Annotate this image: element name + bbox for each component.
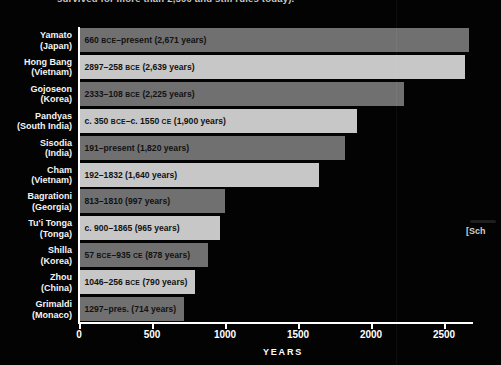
era-abbrev: CE [133,252,143,259]
bar-period-label: 1046–256 BCE (790 years) [80,270,195,295]
bar-period-label: 192–1832 (1,640 years) [80,163,319,187]
bar: 2897–258 BCE (2,639 years) [80,55,465,79]
bar-period-label: 2897–258 BCE (2,639 years) [80,55,465,80]
bar-period-label: c. 900–1865 (965 years) [80,216,221,240]
dynasty-name: Tu'i Tonga [0,218,72,229]
x-axis-line [78,322,473,324]
x-tick-label: 2000 [351,329,391,340]
x-tick [79,322,81,329]
clipped-side-smudge [470,220,496,223]
y-axis-category-label: Shilla(Korea) [0,245,72,266]
dynasty-country: (Vietnam) [0,175,72,186]
dynasty-name: Gojoseon [0,83,72,94]
era-abbrev: BCE [125,279,140,286]
dynasty-country: (Monaco) [0,309,72,320]
dynasty-country: (Tonga) [0,228,72,239]
x-tick [225,322,227,329]
bar: 191–present (1,820 years) [80,136,346,160]
y-axis-category-label: Pandyas(South India) [0,110,72,131]
y-axis-category-label: Zhou(China) [0,272,72,293]
bar-period-label: 660 BCE–present (2,671 years) [80,28,470,53]
x-tick-label: 0 [59,329,99,340]
dynasty-name: Grimaldi [0,299,72,310]
era-abbrev: CE [162,118,172,125]
bar-period-label: 2333–108 BCE (2,225 years) [80,82,405,107]
bar: 660 BCE–present (2,671 years) [80,28,470,52]
era-abbrev: BCE [125,64,140,71]
dynasty-name: Shilla [0,245,72,256]
bar: 192–1832 (1,640 years) [80,163,319,187]
bar-period-label: 57 BCE–935 CE (878 years) [80,243,208,268]
x-tick [152,322,154,329]
y-axis-category-label: Yamato(Japan) [0,30,72,51]
y-axis-category-label: Sisodia(India) [0,137,72,158]
x-tick [298,322,300,329]
bar: 57 BCE–935 CE (878 years) [80,243,208,267]
bar: 813–1810 (997 years) [80,189,226,213]
x-tick-label: 1500 [278,329,318,340]
era-abbrev: BCE [111,118,126,125]
x-tick-label: 1000 [205,329,245,340]
bar-period-label: c. 350 BCE–c. 1550 CE (1,900 years) [80,109,357,134]
dynasty-country: (Korea) [0,255,72,266]
bar-period-label: 813–1810 (997 years) [80,189,226,213]
era-abbrev: BCE [101,37,116,44]
dynasty-name: Yamato [0,30,72,41]
dynasty-country: (China) [0,282,72,293]
y-axis-category-label: Cham(Vietnam) [0,164,72,185]
dynasty-country: (Vietnam) [0,67,72,78]
y-axis-category-label: Grimaldi(Monaco) [0,299,72,320]
dynasty-duration-bar-chart: survived for more than 2,500 and still r… [0,0,501,365]
dynasty-name: Bagrationi [0,191,72,202]
dynasty-name: Pandyas [0,110,72,121]
plot-area: YEARS Yamato(Japan)660 BCE–present (2,67… [0,0,501,365]
dynasty-name: Sisodia [0,137,72,148]
bar: c. 350 BCE–c. 1550 CE (1,900 years) [80,109,357,133]
bar: 2333–108 BCE (2,225 years) [80,82,405,106]
era-abbrev: BCE [96,252,111,259]
bar: c. 900–1865 (965 years) [80,216,221,240]
bar-period-label: 191–present (1,820 years) [80,136,346,160]
photo-crease-artifact [396,0,397,365]
bar: 1297–pres. (714 years) [80,297,184,321]
dynasty-country: (India) [0,148,72,159]
y-axis-category-label: Tu'i Tonga(Tonga) [0,218,72,239]
y-axis-category-label: Gojoseon(Korea) [0,83,72,104]
bar: 1046–256 BCE (790 years) [80,270,195,294]
era-abbrev: BCE [125,91,140,98]
dynasty-name: Cham [0,164,72,175]
dynasty-country: (Georgia) [0,201,72,212]
y-axis-category-label: Hong Bang(Vietnam) [0,56,72,77]
y-axis-category-label: Bagrationi(Georgia) [0,191,72,212]
x-axis-title: YEARS [203,347,363,357]
x-tick [444,322,446,329]
clipped-side-text: [Sch [466,226,486,236]
dynasty-country: (South India) [0,121,72,132]
dynasty-name: Zhou [0,272,72,283]
dynasty-name: Hong Bang [0,56,72,67]
dynasty-country: (Japan) [0,40,72,51]
x-tick [371,322,373,329]
dynasty-country: (Korea) [0,94,72,105]
x-tick-label: 500 [132,329,172,340]
x-tick-label: 2500 [424,329,464,340]
bar-period-label: 1297–pres. (714 years) [80,297,184,321]
